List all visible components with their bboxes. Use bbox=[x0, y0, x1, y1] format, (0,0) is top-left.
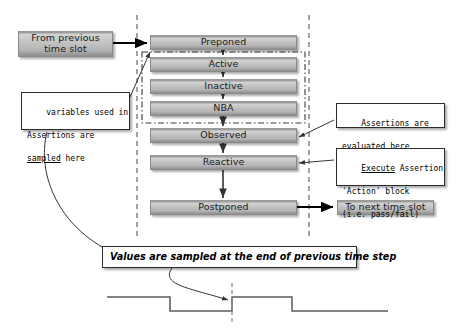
region-box-preponed[interactable]: Preponed bbox=[150, 35, 297, 50]
region-box-active[interactable]: Active bbox=[150, 57, 297, 72]
leader-execute-assertion bbox=[299, 160, 334, 163]
callout-assertions-evaluated-line1: Assertions are bbox=[361, 119, 428, 128]
region-box-nba[interactable]: NBA bbox=[150, 101, 297, 116]
region-label-inactive: Inactive bbox=[204, 81, 243, 92]
diagram-canvas: Preponed Active Inactive NBA Observed Re… bbox=[0, 0, 463, 332]
note-box-values-sampled[interactable]: Values are sampled at the end of previou… bbox=[102, 246, 357, 268]
region-box-reactive[interactable]: Reactive bbox=[150, 155, 297, 170]
callout-execute-assertion-line2: 'Action' block bbox=[342, 187, 409, 196]
region-label-postponed: Postponed bbox=[198, 202, 249, 213]
callout-sampled-here-line1: variables used in bbox=[46, 108, 128, 117]
callout-sampled-here-line3-rest: here bbox=[61, 154, 85, 163]
callout-sampled-here-line2: Assertions are bbox=[27, 131, 94, 140]
region-label-observed: Observed bbox=[200, 130, 247, 141]
leader-sampled-here bbox=[130, 52, 150, 97]
curve-sampled-to-note bbox=[44, 132, 112, 252]
region-label-nba: NBA bbox=[213, 103, 233, 114]
region-box-inactive[interactable]: Inactive bbox=[150, 79, 297, 94]
note-box-label: Values are sampled at the end of previou… bbox=[110, 250, 396, 264]
callout-execute-assertion-line1-rest: Assertion bbox=[395, 164, 443, 173]
region-label-preponed: Preponed bbox=[201, 37, 247, 48]
leader-assertions-evaluated bbox=[299, 120, 334, 137]
clock-waveform bbox=[107, 297, 388, 311]
callout-assertions-evaluated[interactable]: Assertions are evaluated here bbox=[336, 103, 445, 128]
region-box-observed[interactable]: Observed bbox=[150, 128, 297, 143]
callout-sampled-here-underlined: sampled bbox=[27, 154, 61, 163]
callout-execute-assertion[interactable]: Execute Assertion 'Action' block (i.e. p… bbox=[336, 148, 445, 186]
region-label-reactive: Reactive bbox=[203, 157, 245, 168]
callout-execute-assertion-underlined: Execute bbox=[361, 164, 395, 173]
entry-box-label: From previous time slot bbox=[19, 33, 112, 54]
callout-sampled-here[interactable]: variables used in Assertions are sampled… bbox=[21, 92, 130, 130]
curve-note-to-waveform bbox=[169, 268, 228, 300]
region-label-active: Active bbox=[209, 59, 239, 70]
entry-box-from-previous-time-slot[interactable]: From previous time slot bbox=[18, 31, 113, 57]
callout-execute-assertion-line3: (i.e. pass/fail) bbox=[342, 210, 419, 219]
region-box-postponed[interactable]: Postponed bbox=[150, 200, 297, 215]
